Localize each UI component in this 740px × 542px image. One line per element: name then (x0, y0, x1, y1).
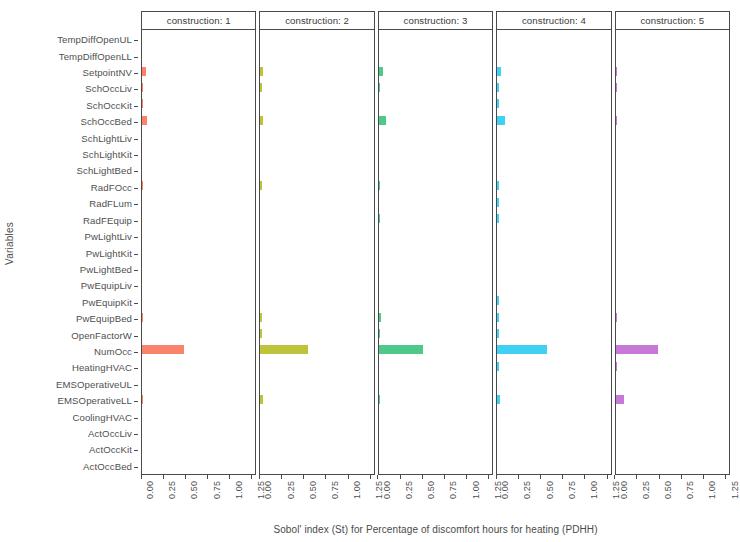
bar-setpointnv (142, 67, 146, 76)
bar-heatinghvac (497, 362, 498, 371)
y-axis-tick-label-pwequipliv: PwEquipLiv (81, 280, 132, 292)
bar-setpointnv (497, 67, 501, 76)
x-axis-tick-mark (496, 475, 497, 479)
y-axis-tick-mark (134, 418, 138, 419)
y-axis-tick-label-actoccbed: ActOccBed (83, 461, 132, 473)
x-axis-tick-mark (636, 475, 637, 479)
x-axis-tick-mark (377, 475, 378, 479)
y-axis-tick-mark (134, 221, 138, 222)
x-axis-tick-mark (466, 475, 467, 479)
facet-panel-2: construction: 2 (259, 11, 374, 475)
facet-strip-label: construction: 5 (640, 15, 704, 26)
y-axis-tick-label-schlightliv: SchLightLiv (81, 133, 132, 145)
x-axis-ticks: 0.000.250.500.751.001.250.000.250.500.75… (141, 475, 730, 523)
x-axis-tick-label: 0.00 (500, 481, 510, 499)
bar-schoccbed (260, 116, 262, 125)
x-axis-tick-mark (703, 475, 704, 479)
x-axis-tick-mark (725, 475, 726, 479)
x-axis-tick-label: 1.00 (707, 481, 717, 499)
x-axis-tick-mark (584, 475, 585, 479)
y-axis-tick-mark (134, 286, 138, 287)
bars-container (260, 30, 373, 474)
bar-pwequipkit (497, 296, 498, 305)
y-axis-tick-mark (134, 40, 138, 41)
y-axis-tick-mark (134, 352, 138, 353)
y-axis-tick-label-schocckit: SchOccKit (86, 100, 132, 112)
panel-plot-area-1 (141, 30, 256, 475)
x-axis-tick-label: 0.25 (404, 481, 414, 499)
x-axis-tick-mark (659, 475, 660, 479)
x-axis-tick-label: 0.25 (522, 481, 532, 499)
bars-container (616, 30, 729, 474)
x-axis-panel-1: 0.000.250.500.751.001.25 (141, 475, 256, 523)
panel-plot-area-5 (615, 30, 730, 475)
x-axis-panel-2: 0.000.250.500.751.001.25 (259, 475, 374, 523)
facet-panels: construction: 1construction: 2constructi… (141, 11, 730, 475)
bar-schocckit (142, 99, 143, 108)
x-axis-tick-mark (562, 475, 563, 479)
y-axis-tick-label-coolinghvac: CoolingHVAC (72, 412, 132, 424)
y-axis-tick-label-radflum: RadFLum (89, 198, 132, 210)
y-axis-tick-label-tempdiffopenll: TempDiffOpenLL (59, 51, 132, 63)
x-axis-tick-label: 0.00 (382, 481, 392, 499)
x-axis-tick-mark (325, 475, 326, 479)
x-axis-tick-mark (488, 475, 489, 479)
bar-schoccliv (379, 83, 380, 92)
y-axis-tick-label-schlightbed: SchLightBed (76, 165, 132, 177)
bar-emsoperativell (142, 395, 143, 404)
bar-schoccliv (497, 83, 498, 92)
y-axis-tick-label-actoccliv: ActOccLiv (88, 428, 132, 440)
y-axis-tick-label-schoccbed: SchOccBed (80, 116, 132, 128)
facet-strip-label: construction: 1 (167, 15, 231, 26)
bar-schoccbed (616, 116, 617, 125)
bar-radfocc (142, 181, 143, 190)
x-axis-tick-label: 0.25 (641, 481, 651, 499)
x-axis-panel-3: 0.000.250.500.751.001.25 (378, 475, 493, 523)
x-axis-tick-mark (614, 475, 615, 479)
panel-plot-area-3 (378, 30, 493, 475)
facet-strip-5: construction: 5 (615, 11, 730, 30)
x-axis-tick-label: 1.25 (730, 481, 740, 499)
x-axis-tick-label: 0.75 (685, 481, 695, 499)
y-axis-tick-mark (134, 303, 138, 304)
panel-plot-area-4 (496, 30, 611, 475)
y-axis-tick-mark (134, 385, 138, 386)
bar-radfocc (379, 181, 381, 190)
bar-schoccbed (497, 116, 505, 125)
y-axis-tick-mark (134, 155, 138, 156)
bar-emsoperativell (379, 395, 380, 404)
bar-emsoperativell (260, 395, 262, 404)
bar-radfocc (497, 181, 499, 190)
y-axis-tick-label-tempdiffopenul: TempDiffOpenUL (57, 34, 132, 46)
y-axis-tick-mark (134, 57, 138, 58)
x-axis-tick-mark (207, 475, 208, 479)
x-axis-tick-mark (303, 475, 304, 479)
x-axis-tick-label: 0.50 (545, 481, 555, 499)
x-axis-tick-mark (370, 475, 371, 479)
x-axis-tick-mark (607, 475, 608, 479)
facet-strip-4: construction: 4 (496, 11, 611, 30)
y-axis-tick-mark (134, 319, 138, 320)
facet-panel-5: construction: 5 (615, 11, 730, 475)
x-axis-tick-mark (185, 475, 186, 479)
bar-numocc (260, 345, 307, 354)
bar-numocc (616, 345, 659, 354)
y-axis-tick-label-actocckit: ActOccKit (89, 444, 132, 456)
y-axis-tick-mark (134, 434, 138, 435)
x-axis-tick-mark (400, 475, 401, 479)
y-axis-tick-label-setpointnv: SetpointNV (82, 67, 132, 79)
facet-strip-2: construction: 2 (259, 11, 374, 30)
y-axis-title-label: Variables (4, 222, 15, 265)
x-axis-tick-label: 0.75 (212, 481, 222, 499)
y-axis-tick-label-numocc: NumOcc (94, 346, 132, 358)
bars-container (379, 30, 492, 474)
bar-schoccliv (260, 83, 261, 92)
bar-schoccbed (142, 116, 147, 125)
bar-radfequip (497, 214, 498, 223)
bar-numocc (497, 345, 547, 354)
y-axis-tick-labels: TempDiffOpenULTempDiffOpenLLSetpointNVSc… (16, 32, 138, 475)
x-axis-tick-label: 0.50 (308, 481, 318, 499)
y-axis-tick-label-pwlightliv: PwLightLiv (85, 231, 132, 243)
x-axis-tick-mark (348, 475, 349, 479)
